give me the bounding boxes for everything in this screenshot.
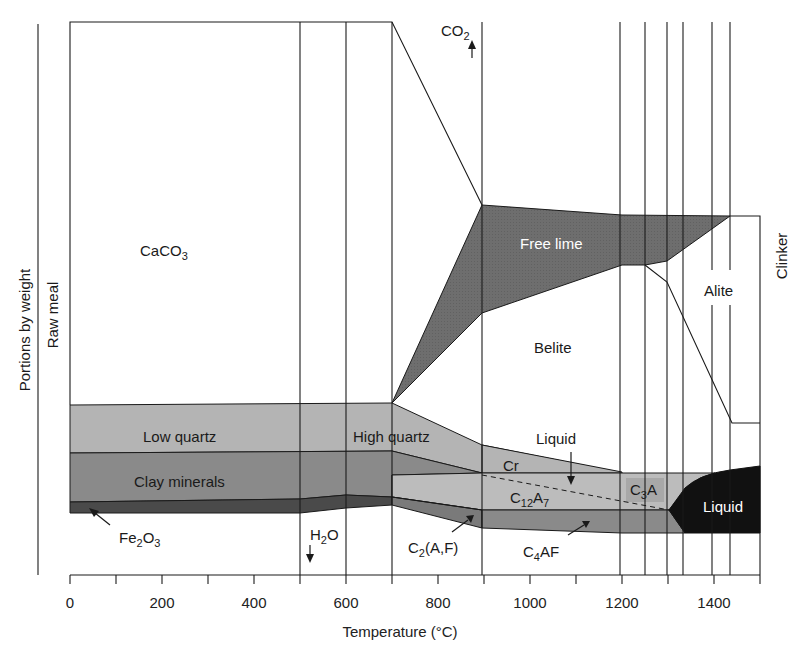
free-lime-label: Free lime: [520, 235, 583, 252]
x-tick-0: 0: [66, 594, 74, 611]
caco3-label: CaCO3: [140, 242, 188, 262]
x-tick-1400: 1400: [697, 594, 730, 611]
liquid-annotation-label: Liquid: [536, 430, 576, 447]
clinker-label: Clinker: [773, 233, 790, 280]
x-tick-600: 600: [333, 594, 358, 611]
x-tick-800: 800: [425, 594, 450, 611]
raw-meal-label: Raw meal: [44, 282, 61, 349]
c4af-label: C4AF: [523, 543, 559, 563]
alite-boundary: [645, 265, 760, 423]
fe2o3-label: Fe2O3: [119, 529, 160, 549]
high-quartz-label: High quartz: [353, 428, 430, 445]
co2-label: CO2: [441, 22, 470, 42]
x-tick-1000: 1000: [513, 594, 546, 611]
x-tick-400: 400: [241, 594, 266, 611]
y-axis-label: Portions by weight: [16, 268, 33, 391]
cement-clinker-phase-diagram: 0 200 400 600 800 1000 1200 1400 Tempera…: [0, 0, 799, 662]
co2-arrow-icon: [468, 40, 476, 58]
c2af-label: C2(A,F): [408, 539, 458, 559]
x-tick-200: 200: [149, 594, 174, 611]
liquid-phase-label: Liquid: [703, 498, 743, 515]
h2o-label: H2O: [310, 526, 339, 546]
x-axis-label: Temperature (°C): [342, 623, 457, 640]
belite-label: Belite: [534, 339, 572, 356]
cr-label: Cr: [503, 457, 519, 474]
h2o-arrow-icon: [306, 545, 314, 563]
x-tick-1200: 1200: [605, 594, 638, 611]
low-quartz-label: Low quartz: [143, 428, 216, 445]
x-axis: 0 200 400 600 800 1000 1200 1400 Tempera…: [66, 575, 760, 640]
alite-label: Alite: [704, 282, 733, 299]
clay-minerals-label: Clay minerals: [134, 473, 225, 490]
